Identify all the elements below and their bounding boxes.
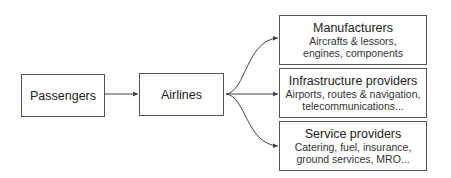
node-service-title: Service providers — [305, 127, 402, 141]
node-service-line1: Catering, fuel, insurance, — [295, 141, 412, 154]
node-infrastructure-line1: Airports, routes & navigation, — [286, 88, 421, 101]
node-airlines-title: Airlines — [161, 88, 202, 102]
node-passengers: Passengers — [21, 74, 105, 117]
node-service-line2: ground services, MRO... — [296, 153, 409, 166]
edge-airlines-service — [226, 94, 278, 146]
node-service: Service providers Catering, fuel, insura… — [279, 121, 427, 171]
node-airlines: Airlines — [139, 73, 224, 116]
node-infrastructure-title: Infrastructure providers — [289, 74, 418, 88]
node-manufacturers-title: Manufacturers — [313, 21, 393, 35]
node-infrastructure-line2: telecommunications... — [302, 100, 404, 113]
node-manufacturers-line2: engines, components — [303, 47, 403, 60]
node-manufacturers-line1: Aircrafts & lessors, — [309, 35, 397, 48]
edge-airlines-manufacturers — [226, 38, 278, 94]
node-passengers-title: Passengers — [30, 89, 96, 103]
node-infrastructure: Infrastructure providers Airports, route… — [279, 68, 427, 118]
node-manufacturers: Manufacturers Aircrafts & lessors, engin… — [279, 15, 427, 65]
